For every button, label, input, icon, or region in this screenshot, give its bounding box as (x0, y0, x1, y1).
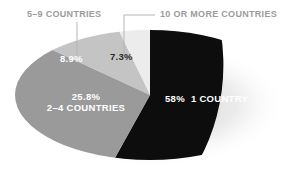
slice-category-one-country: 1 COUNTRY (191, 93, 248, 104)
slice-category-two-to-four: 2–4 COUNTRIES (34, 102, 138, 113)
callout-label-ten-or-more: 10 OR MORE COUNTRIES (160, 9, 277, 19)
pie-slices (0, 0, 223, 176)
pie-chart-figure: 5–9 COUNTRIES 10 OR MORE COUNTRIES 7.3% … (0, 0, 298, 176)
slice-value-five-to-nine: 8.9% (60, 53, 83, 64)
slice-value-two-to-four: 25.8% (34, 91, 138, 102)
slice-label-one-country: 58%1 COUNTRY (165, 93, 248, 104)
slice-value-one-country: 58% (165, 93, 185, 104)
slice-value-ten-or-more: 7.3% (110, 51, 133, 62)
slice-label-two-to-four: 25.8% 2–4 COUNTRIES (34, 91, 138, 113)
pie-chart-canvas (0, 0, 298, 176)
callout-label-five-to-nine: 5–9 COUNTRIES (27, 9, 101, 19)
